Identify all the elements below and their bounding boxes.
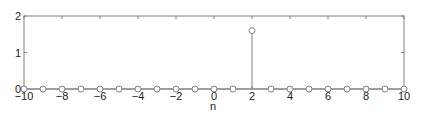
stem-marker: [40, 86, 46, 92]
stem-marker: [268, 86, 274, 92]
y-tick-label: 1: [15, 47, 21, 59]
y-tick-labels: 012: [15, 10, 21, 95]
x-tick-label: 6: [325, 90, 331, 102]
x-tick-label: 8: [363, 90, 369, 102]
x-tick-label: 10: [398, 90, 410, 102]
x-axis-label: n: [210, 100, 216, 112]
x-tick-label: 4: [287, 90, 293, 102]
axis-ticks: [24, 16, 404, 89]
plot-border: [24, 16, 404, 89]
x-tick-label: 2: [249, 90, 255, 102]
data-stems: [21, 28, 407, 92]
x-tick-label: −8: [56, 90, 69, 102]
y-tick-label: 0: [15, 83, 21, 95]
stem-marker: [154, 86, 160, 92]
x-tick-label: −6: [94, 90, 107, 102]
y-tick-label: 2: [15, 10, 21, 22]
stem-marker: [192, 86, 198, 92]
stem-marker: [306, 86, 312, 92]
stem-marker: [382, 86, 388, 92]
stem-marker: [249, 28, 255, 34]
axes-frame: [24, 16, 404, 89]
x-tick-label: −4: [132, 90, 145, 102]
stem-plot: −10−8−6−4−20246810 012 n: [0, 0, 422, 117]
stem-marker: [230, 86, 236, 92]
stem-marker: [344, 86, 350, 92]
x-tick-label: −2: [170, 90, 183, 102]
stem-marker: [116, 86, 122, 92]
stem-marker: [78, 86, 84, 92]
